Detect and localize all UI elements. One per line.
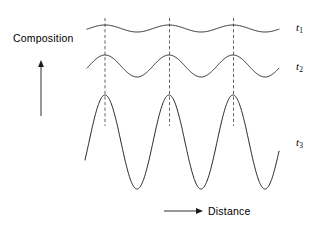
x-axis-label: Distance <box>208 205 250 217</box>
axis-arrows-group <box>38 60 203 214</box>
curve-label-t1-subscript: 1 <box>299 26 303 35</box>
y-axis-arrow-head <box>38 60 44 67</box>
curve-label-t2: t2 <box>296 60 303 72</box>
composition-curves-group <box>85 25 279 189</box>
curve-label-t3: t3 <box>296 136 303 148</box>
curve-label-t2-subscript: 2 <box>299 65 303 74</box>
curve-label-t1: t1 <box>296 21 303 33</box>
y-axis-label: Composition <box>13 32 74 44</box>
composition-curve-t1 <box>87 25 279 32</box>
curve-label-t3-subscript: 3 <box>299 141 303 150</box>
composition-curve-t2 <box>87 55 279 77</box>
x-axis-arrow-head <box>196 208 203 214</box>
guide-lines-group <box>105 18 234 126</box>
composition-curve-t3 <box>85 95 279 189</box>
spinodal-decomposition-figure: Composition Distance t1 t2 t3 <box>0 0 319 233</box>
